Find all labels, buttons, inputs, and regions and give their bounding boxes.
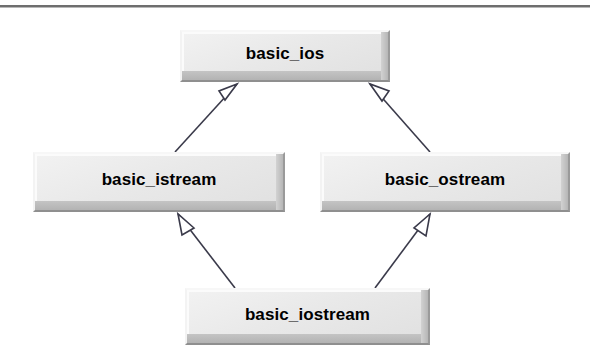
box-bottom-bevel: [187, 334, 428, 343]
generalization-iostream-to-ostream: [375, 214, 430, 288]
class-label-basic-istream: basic_istream: [102, 170, 217, 190]
class-box-basic-iostream[interactable]: basic_iostream: [185, 288, 430, 345]
diagram-canvas: basic_ios basic_istream basic_ostream ba…: [0, 0, 596, 360]
generalization-istream-to-ios: [175, 84, 237, 152]
class-box-basic-ostream[interactable]: basic_ostream: [320, 152, 570, 212]
class-label-basic-iostream: basic_iostream: [245, 305, 370, 325]
box-bottom-bevel: [322, 201, 568, 210]
box-right-bevel: [381, 32, 388, 80]
box-right-bevel: [421, 290, 428, 343]
class-box-basic-istream[interactable]: basic_istream: [33, 152, 285, 212]
box-bottom-bevel: [35, 201, 283, 210]
box-right-bevel: [561, 154, 568, 210]
class-box-basic-ios[interactable]: basic_ios: [180, 30, 390, 82]
box-bottom-bevel: [182, 71, 388, 80]
generalization-ostream-to-ios: [370, 84, 430, 152]
generalization-iostream-to-istream: [178, 214, 235, 288]
box-right-bevel: [276, 154, 283, 210]
class-label-basic-ios: basic_ios: [246, 44, 324, 64]
class-label-basic-ostream: basic_ostream: [385, 170, 505, 190]
